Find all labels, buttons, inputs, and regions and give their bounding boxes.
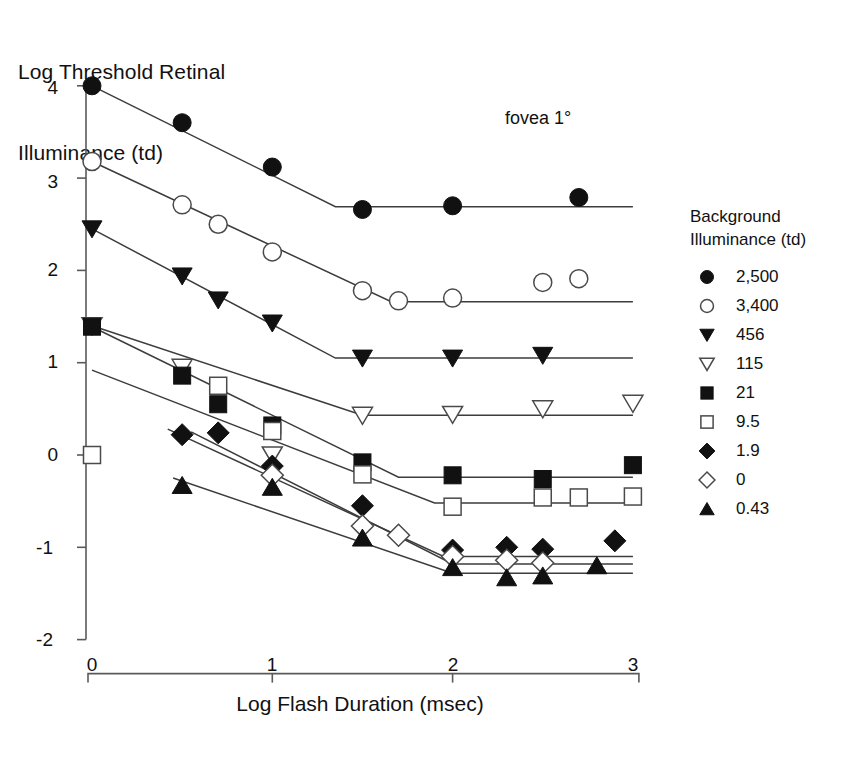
data-point	[570, 188, 588, 206]
open-circle-icon	[690, 293, 724, 319]
fit-line-0	[191, 432, 633, 564]
data-point	[604, 530, 626, 552]
data-point	[84, 447, 101, 464]
legend-label: 21	[724, 383, 755, 403]
data-point	[444, 498, 461, 515]
data-point	[570, 489, 587, 506]
open-diamond-icon	[690, 467, 724, 493]
open-triangle-down-icon	[690, 351, 724, 377]
data-point	[390, 292, 408, 310]
data-point	[174, 367, 191, 384]
data-point	[587, 557, 607, 574]
data-point	[83, 77, 101, 95]
data-point	[208, 292, 228, 309]
legend-row: 21	[690, 378, 806, 407]
data-point	[264, 423, 281, 440]
legend-title-line1: Background	[690, 205, 806, 228]
x-axis-spine	[88, 674, 639, 683]
series-21	[84, 318, 642, 487]
legend-row: 0.43	[690, 494, 806, 523]
legend-label: 1.9	[724, 441, 760, 461]
open-square-icon	[690, 409, 724, 435]
legend-row: 115	[690, 349, 806, 378]
chart-figure: Log Threshold Retinal Illuminance (td) f…	[0, 0, 861, 770]
data-point	[497, 569, 517, 586]
legend-row: 2,500	[690, 262, 806, 291]
data-point	[82, 221, 102, 238]
legend-row: 9.5	[690, 407, 806, 436]
axes-group	[77, 86, 639, 683]
legend-label: 0.43	[724, 499, 769, 519]
data-point	[84, 318, 101, 335]
data-point	[353, 282, 371, 300]
data-markers-group	[82, 77, 643, 586]
filled-square-icon	[690, 380, 724, 406]
legend: Background Illuminance (td) 2,5003,40045…	[690, 205, 806, 523]
data-point	[83, 152, 101, 170]
data-point	[388, 524, 410, 546]
data-point	[173, 114, 191, 132]
data-point	[533, 567, 553, 584]
filled-circle-icon	[690, 264, 724, 290]
data-point	[171, 424, 193, 446]
data-point	[263, 243, 281, 261]
filled-triangle-up-icon	[690, 496, 724, 522]
data-point	[210, 396, 227, 413]
data-point	[534, 489, 551, 506]
data-point	[623, 395, 643, 412]
data-point	[352, 529, 372, 546]
legend-label: 456	[724, 325, 764, 345]
legend-label: 115	[724, 354, 763, 374]
data-point	[209, 215, 227, 233]
fit-line-2,500	[92, 86, 633, 207]
data-point	[207, 422, 229, 444]
legend-row: 3,400	[690, 291, 806, 320]
data-point	[534, 470, 551, 487]
legend-label: 2,500	[724, 267, 779, 287]
data-point	[444, 197, 462, 215]
data-point	[351, 495, 373, 517]
data-point	[173, 196, 191, 214]
series-3,400	[83, 152, 588, 309]
series-2,500	[83, 77, 588, 219]
data-point	[263, 158, 281, 176]
data-point	[570, 270, 588, 288]
legend-label: 3,400	[724, 296, 779, 316]
filled-diamond-icon	[690, 438, 724, 464]
data-point	[624, 457, 641, 474]
legend-row: 1.9	[690, 436, 806, 465]
data-point	[533, 347, 553, 364]
data-point	[624, 488, 641, 505]
legend-row: 0	[690, 465, 806, 494]
legend-label: 0	[724, 470, 745, 490]
data-point	[354, 466, 371, 483]
legend-items: 2,5003,400456115219.51.900.43	[690, 262, 806, 523]
data-point	[262, 315, 282, 332]
legend-title-line2: Illuminance (td)	[690, 228, 806, 251]
data-point	[353, 200, 371, 218]
data-point	[444, 289, 462, 307]
filled-triangle-down-icon	[690, 322, 724, 348]
fit-line-0.43	[173, 478, 633, 573]
legend-title: Background Illuminance (td)	[690, 205, 806, 251]
data-point	[534, 273, 552, 291]
legend-row: 456	[690, 320, 806, 349]
series-115	[82, 318, 643, 464]
legend-label: 9.5	[724, 412, 760, 432]
data-point	[444, 467, 461, 484]
data-point	[210, 377, 227, 394]
data-point	[172, 268, 192, 285]
